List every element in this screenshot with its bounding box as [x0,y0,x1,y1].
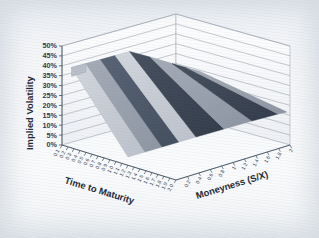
z-tick-label: 25% [43,91,58,100]
y-tick-label: 0.6 [206,172,215,181]
figure-page: 50% 45% 40% 35% 30% 25% 20% 15% 10% 5% 0… [0,0,319,238]
y-tick-label: 0.2 [183,179,192,188]
z-tick-labels: 50% 45% 40% 35% 30% 25% 20% 15% 10% 5% 0… [43,41,58,149]
z-axis-title: Implied Volatility [24,75,35,150]
z-tick-label: 0% [47,140,58,149]
z-tick-label: 5% [47,131,58,140]
z-tick-label: 50% [43,41,58,50]
z-tick-label: 20% [43,101,58,110]
volatility-surface-chart: 50% 45% 40% 35% 30% 25% 20% 15% 10% 5% 0… [0,0,319,238]
y-tick-label: 1.4 [251,158,260,167]
z-tick-label: 15% [43,111,58,120]
y-tick-label: 1.6 [263,155,272,164]
z-tick-label: 40% [43,61,58,70]
y-tick-label: 1.8 [274,151,283,160]
y-axis-title: Moneyness (S/X) [194,168,269,200]
y-tick-label: 1.2 [240,162,249,171]
x-axis-title: Time to Maturity [63,174,136,206]
z-tick-label: 10% [43,121,58,130]
y-tick-label: 1 [230,165,237,170]
z-tick-label: 30% [43,81,58,90]
y-tick-label: 2 [287,148,294,153]
y-tick-label: 0.4 [194,176,203,185]
z-tick-label: 35% [43,71,58,80]
z-tick-label: 45% [43,51,58,60]
y-tick-label: 0.8 [217,169,226,178]
